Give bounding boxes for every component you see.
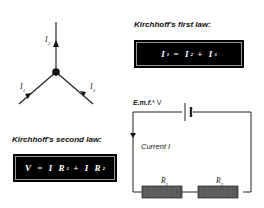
resistor-r2-icon	[198, 186, 238, 198]
circuit-diagram	[130, 100, 264, 208]
label-r1-sub: 1	[166, 182, 169, 187]
label-i1: I1	[20, 82, 25, 93]
label-r2: R2	[216, 176, 223, 187]
label-i2-sub: 2	[48, 41, 51, 46]
label-i3: I3	[90, 82, 95, 93]
current-arrow-icon	[130, 133, 136, 138]
junction-node-icon	[52, 68, 60, 76]
eq1-term2-sub: 3	[214, 52, 217, 57]
first-law-title: Kirchhoff's first law:	[134, 20, 211, 29]
label-r2-sub: 2	[221, 182, 224, 187]
eq1-lhs-sub: 1	[167, 52, 170, 57]
eq1-plus: +	[197, 49, 204, 59]
resistor-r1-icon	[142, 186, 182, 198]
eq1-equals: =	[174, 49, 181, 59]
eq2-term1-sub: 1	[67, 166, 70, 171]
eq2-plus: +	[73, 163, 80, 173]
eq2-term2: I R	[85, 163, 103, 173]
second-law-equation: V = I R1 + I R2	[13, 154, 117, 182]
first-law-equation: I1 = I2 + I3	[134, 40, 244, 68]
wire-i3	[56, 72, 93, 104]
eq2-term2-sub: 2	[102, 166, 105, 171]
current-label: Current I	[141, 142, 170, 151]
arrow-up-icon	[53, 40, 59, 47]
second-law-title: Kirchhoff's second law:	[12, 135, 102, 144]
label-i1-sub: 1	[23, 88, 26, 93]
junction-diagram	[0, 0, 130, 110]
label-i2: I2	[45, 35, 50, 46]
eq1-term1-sub: 2	[191, 52, 194, 57]
eq2-lhs: V	[25, 163, 33, 173]
label-i3-sub: 3	[93, 88, 96, 93]
eq2-equals: =	[37, 163, 44, 173]
wire-left	[133, 112, 182, 192]
eq2-term1: I R	[49, 163, 67, 173]
label-r1: R1	[161, 176, 168, 187]
